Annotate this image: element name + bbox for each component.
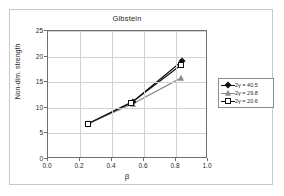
y-tick-label: 20	[17, 52, 43, 59]
y-axis-tick-labels: 0510152025	[14, 30, 43, 158]
legend-item: 2γ = 40.5	[220, 81, 272, 89]
gridline-vertical	[80, 31, 81, 157]
y-tick-label: 5	[17, 129, 43, 136]
data-point-marker	[85, 121, 91, 127]
gridline-vertical	[112, 31, 113, 157]
x-tick-mark	[47, 158, 48, 161]
x-tick-label: 0.8	[160, 162, 190, 169]
legend-label: 2γ = 20.6	[235, 97, 258, 105]
legend-label: 2γ = 29.8	[235, 89, 258, 97]
gridline-vertical	[176, 31, 177, 157]
y-tick-mark	[44, 56, 47, 57]
chart-figure: Gibstein Non-dim. strength β 0510152025 …	[0, 0, 284, 196]
x-axis-tick-labels: 0.00.20.40.60.81.0	[47, 162, 207, 174]
gridline-horizontal	[48, 108, 206, 109]
data-point-marker	[178, 62, 184, 68]
x-tick-mark	[143, 158, 144, 161]
y-tick-label: 10	[17, 103, 43, 110]
gridline-horizontal	[48, 82, 206, 83]
gridline-horizontal	[48, 133, 206, 134]
legend-item: 2γ = 20.6	[220, 97, 272, 105]
gridline-vertical	[144, 31, 145, 157]
x-tick-label: 1.0	[192, 162, 222, 169]
legend-marker-glyph	[224, 81, 231, 88]
x-tick-mark	[111, 158, 112, 161]
data-point-marker	[128, 100, 134, 106]
legend-label: 2γ = 40.5	[235, 81, 258, 89]
chart-legend: 2γ = 40.52γ = 29.82γ = 20.6	[218, 78, 274, 108]
x-tick-label: 0.6	[128, 162, 158, 169]
x-tick-mark	[207, 158, 208, 161]
y-tick-label: 15	[17, 78, 43, 85]
y-tick-mark	[44, 132, 47, 133]
legend-marker-glyph	[225, 90, 231, 96]
legend-marker-icon	[221, 97, 235, 105]
series-lines	[48, 31, 208, 159]
series-line	[88, 61, 182, 124]
legend-marker-icon	[221, 89, 235, 97]
y-tick-mark	[44, 81, 47, 82]
y-tick-mark	[44, 30, 47, 31]
legend-item: 2γ = 29.8	[220, 89, 272, 97]
x-tick-label: 0.2	[64, 162, 94, 169]
legend-marker-icon	[221, 81, 235, 89]
x-tick-mark	[79, 158, 80, 161]
y-tick-mark	[44, 107, 47, 108]
legend-marker-glyph	[225, 98, 231, 104]
y-tick-label: 0	[17, 155, 43, 162]
data-point-marker	[178, 75, 184, 81]
chart-title: Gibstein	[47, 14, 207, 23]
plot-area	[47, 30, 207, 158]
gridline-horizontal	[48, 31, 206, 32]
x-tick-label: 0.0	[32, 162, 62, 169]
x-tick-label: 0.4	[96, 162, 126, 169]
x-tick-mark	[175, 158, 176, 161]
y-tick-label: 25	[17, 27, 43, 34]
